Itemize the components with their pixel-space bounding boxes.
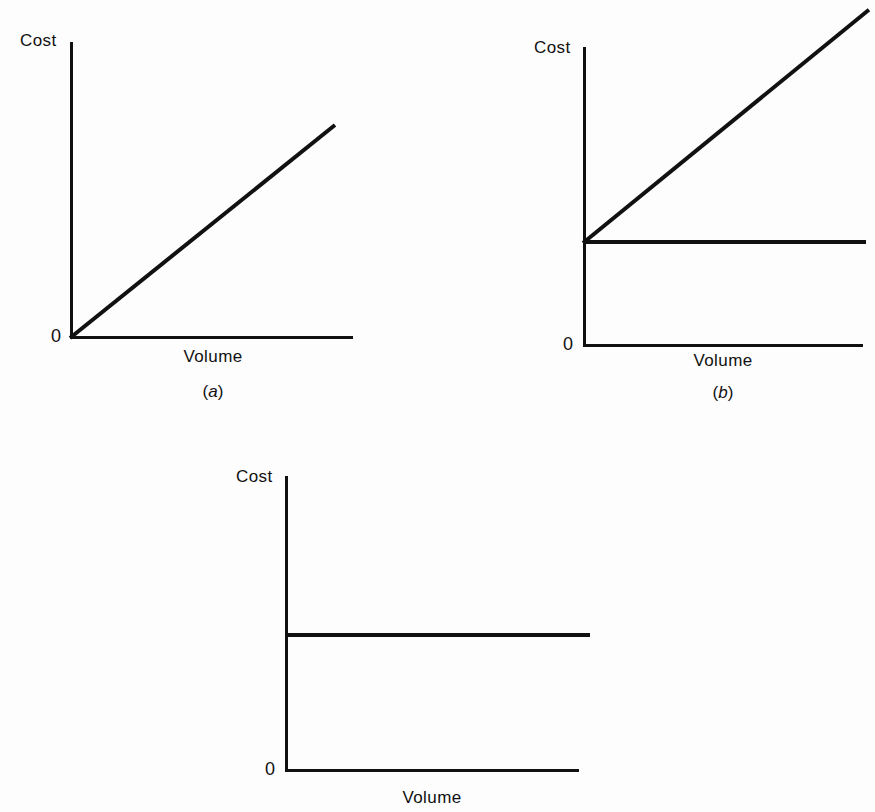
panel-b-caption: (b) [713,383,734,402]
panel-a-x-axis-label: Volume [183,347,242,366]
figure-canvas: Cost 0 Volume (a) Cost 0 Volume (b) Cost… [0,0,875,812]
panel-b-origin-label: 0 [563,334,573,354]
panel-c-x-axis [285,769,579,772]
panel-a-y-axis [70,42,73,339]
panel-b-caption-close: ) [728,383,734,402]
panel-c-fixed-cost-line [285,633,590,637]
panel-a-caption-close: ) [218,382,224,401]
panel-a-caption-letter: a [208,382,217,401]
panel-b-total-mixed-cost-line [582,8,870,244]
panel-b-caption-letter: b [718,383,727,402]
panel-a-origin-label: 0 [51,326,61,346]
panel-a-y-axis-label: Cost [20,31,57,50]
panel-a-caption: (a) [203,382,224,401]
panel-c-y-axis-label: Cost [236,467,273,486]
panel-a-x-axis [70,336,353,339]
panel-c-y-axis [285,476,288,772]
panel-b-x-axis [583,344,863,347]
panel-a-variable-cost-line [69,123,336,339]
panel-b-y-axis [583,47,586,347]
panel-b-y-axis-label: Cost [534,38,571,57]
panel-c-x-axis-label: Volume [402,788,461,807]
panel-b-fixed-cost-line [583,240,866,244]
panel-b-x-axis-label: Volume [693,351,752,370]
panel-c-origin-label: 0 [265,759,275,779]
